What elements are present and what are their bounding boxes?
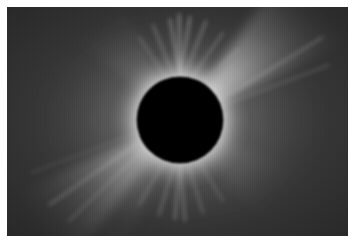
film-grain (7, 7, 348, 236)
eclipse-photo (7, 7, 348, 236)
page-root (0, 0, 356, 251)
eclipse-photo-canvas (7, 7, 348, 236)
